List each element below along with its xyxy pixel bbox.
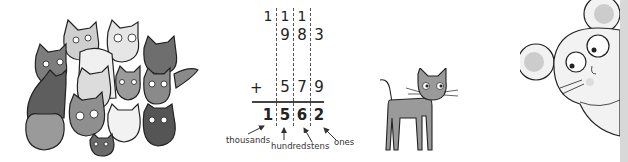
cat-icon (378, 68, 463, 153)
cats-group-illustration (4, 8, 204, 160)
cats-group-icon (4, 8, 204, 160)
page-edge-strip (620, 0, 628, 162)
label-thousands: thousands (226, 135, 270, 145)
label-tens: tens (311, 141, 329, 151)
label-hundreds: hundreds (271, 141, 311, 151)
mouse-icon (520, 0, 620, 140)
mouse-illustration (520, 0, 620, 140)
lone-cat-illustration (378, 68, 463, 153)
column-addition: 1 1 1 9 8 3 + 5 7 9 1 5 6 2 thousands hu… (220, 0, 380, 162)
label-ones: ones (334, 137, 354, 147)
